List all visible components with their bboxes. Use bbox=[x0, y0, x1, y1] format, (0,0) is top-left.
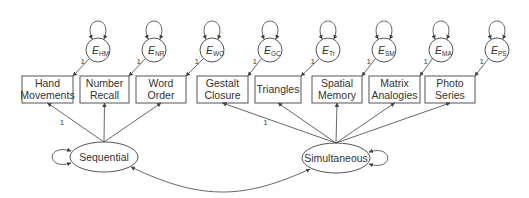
observed-label: Hand bbox=[35, 77, 60, 89]
observed-label: Triangles bbox=[257, 83, 300, 95]
observed-sm: SpatialMemory bbox=[312, 76, 362, 103]
observed-label: Analogies bbox=[371, 89, 417, 101]
error-terms: EHMENREWOEGCETrESMEMAEPS bbox=[86, 21, 509, 62]
observed-wo: WordOrder bbox=[136, 76, 186, 103]
latent-factors: SequentialSimultaneous bbox=[52, 142, 388, 173]
error-wo: EWO bbox=[200, 21, 224, 62]
observed-label: Word bbox=[149, 77, 174, 89]
observed-gc: GestaltClosure bbox=[197, 76, 248, 103]
observed-label: Closure bbox=[204, 89, 240, 101]
observed-label: Matrix bbox=[380, 77, 409, 89]
error-gc: EGC bbox=[258, 21, 282, 62]
error-hm: EHM bbox=[86, 21, 110, 62]
observed-label: Order bbox=[148, 89, 175, 101]
error-path-label: 1 bbox=[424, 57, 429, 66]
error-path-label: 1 bbox=[311, 57, 316, 66]
observed-ps: PhotoSeries bbox=[425, 76, 475, 103]
fixed-loading-label: 1 bbox=[263, 118, 268, 127]
error-sm: ESM bbox=[372, 21, 396, 62]
error-ps: EPS bbox=[485, 21, 509, 62]
observed-label: Movements bbox=[20, 89, 74, 101]
error-path-label: 1 bbox=[81, 57, 86, 66]
latent-seq: Sequential bbox=[52, 142, 138, 172]
sem-diagram: HandMovementsNumberRecallWordOrderGestal… bbox=[0, 0, 529, 198]
latent-sim: Simultaneous bbox=[302, 143, 388, 173]
observed-label: Spatial bbox=[321, 77, 353, 89]
error-path-label: 1 bbox=[195, 57, 200, 66]
observed-tr: Triangles bbox=[255, 76, 301, 103]
fixed-loading-label: 1 bbox=[60, 118, 65, 127]
error-ma: EMA bbox=[429, 21, 453, 62]
observed-ma: MatrixAnalogies bbox=[369, 76, 420, 103]
observed-variables: HandMovementsNumberRecallWordOrderGestal… bbox=[20, 76, 475, 103]
error-tr: ETr bbox=[316, 21, 340, 62]
observed-hm: HandMovements bbox=[20, 76, 74, 103]
error-path-label: 1 bbox=[480, 57, 485, 66]
error-path-label: 1 bbox=[137, 57, 142, 66]
error-nr: ENR bbox=[142, 21, 166, 62]
observed-label: Memory bbox=[318, 89, 357, 101]
covariance-path bbox=[131, 167, 310, 192]
observed-label: Series bbox=[435, 89, 465, 101]
latent-label: Simultaneous bbox=[304, 152, 368, 164]
error-path-label: 1 bbox=[253, 57, 258, 66]
latent-label: Sequential bbox=[79, 151, 129, 163]
observed-label: Gestalt bbox=[206, 77, 239, 89]
error-path-label: 1 bbox=[367, 57, 372, 66]
observed-label: Photo bbox=[436, 77, 464, 89]
observed-label: Recall bbox=[90, 89, 119, 101]
observed-label: Number bbox=[86, 77, 124, 89]
observed-nr: NumberRecall bbox=[80, 76, 129, 103]
